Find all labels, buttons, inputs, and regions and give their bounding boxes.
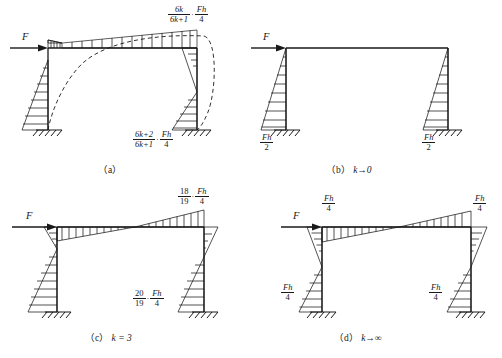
- deflection-curve: [48, 36, 214, 130]
- label-b-right-base: Fh 2: [422, 133, 435, 152]
- panel-d: F Fh 4 Fh 4 Fh 4 Fh 4 （d） k→∞: [251, 179, 502, 358]
- label-c-beam-moment: 18 19 · Fh 4: [178, 187, 209, 206]
- label-a-base-moment: 6k+2 6k+1 · Fh 4: [133, 130, 173, 149]
- left-column-moment-diagram: [22, 60, 48, 130]
- force-label-c: F: [26, 210, 32, 221]
- panel-c: F 18 19 · Fh 4 20 19 · Fh 4 （c） k = 3: [0, 179, 251, 358]
- label-b-left-base: Fh 2: [260, 133, 273, 152]
- caption-b: （b） k→0: [326, 162, 372, 176]
- caption-a: （a）: [98, 162, 122, 176]
- left-column-moment-diagram: [261, 48, 286, 130]
- panel-a: F 6k 6k+1 · Fh 4 6k+2 6k+1 · Fh 4 （a）: [0, 0, 251, 179]
- force-arrow-F: [10, 45, 48, 52]
- support-right: [456, 312, 485, 318]
- panel-b: F Fh 2 Fh 2 （b） k→0: [251, 0, 502, 179]
- panel-b-drawing: [251, 0, 502, 179]
- right-column-moment-diagram: [178, 227, 218, 312]
- caption-d: （d） k→∞: [334, 330, 382, 344]
- force-label-a: F: [22, 31, 28, 42]
- support-left: [33, 130, 62, 136]
- label-c-base-moment: 20 19 · Fh 4: [133, 289, 164, 308]
- support-right: [433, 130, 462, 136]
- right-column-moment-diagram: [447, 227, 487, 312]
- label-d-left-top: Fh 4: [322, 194, 335, 213]
- right-column-moment-diagram: [423, 48, 448, 130]
- label-d-right-top: Fh 4: [473, 194, 486, 213]
- support-left: [271, 130, 300, 136]
- caption-c: （c） k = 3: [85, 330, 132, 344]
- right-column-moment-diagram: [172, 48, 197, 130]
- left-column-moment-diagram: [299, 227, 322, 312]
- support-right: [189, 312, 218, 318]
- label-d-left-base: Fh 4: [281, 283, 294, 302]
- force-label-b: F: [263, 31, 269, 42]
- force-arrow-F: [251, 45, 286, 52]
- support-left: [307, 312, 336, 318]
- panel-a-drawing: [0, 0, 251, 179]
- beam-moment-diagram: [57, 210, 204, 241]
- force-label-d: F: [293, 210, 299, 221]
- left-column-moment-diagram: [28, 227, 57, 312]
- label-d-right-base: Fh 4: [429, 283, 442, 302]
- beam-moment-diagram: [48, 30, 197, 48]
- label-a-beam-moment: 6k 6k+1 · Fh 4: [168, 5, 208, 24]
- support-left: [42, 312, 71, 318]
- support-right: [182, 130, 211, 136]
